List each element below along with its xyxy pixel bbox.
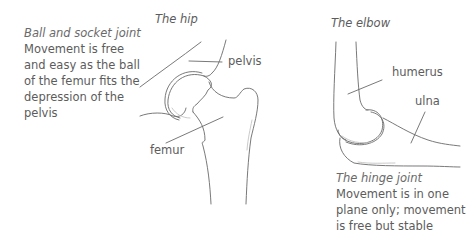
- elbow-illustration: [334, 42, 460, 167]
- joint-illustrations: [0, 0, 473, 252]
- hip-illustration: [140, 40, 258, 204]
